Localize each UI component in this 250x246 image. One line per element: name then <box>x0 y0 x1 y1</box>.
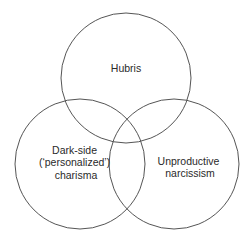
unproductive-narcissism-label: Unproductive narcissism <box>158 155 223 180</box>
dark-side-charisma-label-line-2: (‘personalized’) <box>39 156 110 168</box>
dark-side-charisma-label: Dark-side (‘personalized’) charisma <box>39 144 113 181</box>
dark-side-charisma-label-line-3: charisma <box>55 169 98 181</box>
hubris-label: Hubris <box>111 62 141 74</box>
hubris-circle <box>61 13 191 143</box>
unproductive-narcissism-label-line-1: Unproductive <box>158 155 220 167</box>
unproductive-narcissism-label-line-2: narcissism <box>165 167 215 179</box>
hubris-label-line: Hubris <box>111 62 141 74</box>
dark-side-charisma-label-line-1: Dark-side <box>52 144 97 156</box>
venn-diagram: Hubris Dark-side (‘personalized’) charis… <box>0 0 250 246</box>
